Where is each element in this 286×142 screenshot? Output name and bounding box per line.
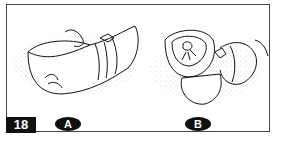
illustration	[0, 0, 286, 142]
bundle-a-drawing	[13, 26, 138, 95]
panel-label-b: B	[185, 117, 211, 131]
bundle-b-drawing	[150, 30, 268, 104]
panel-label-a: A	[55, 117, 81, 131]
figure-number: 18	[6, 117, 36, 133]
